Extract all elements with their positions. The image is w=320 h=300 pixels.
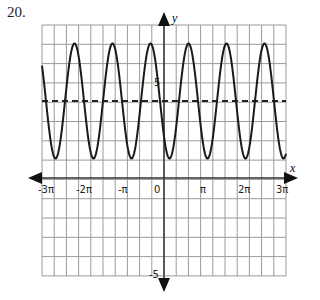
chart: y x -3π-2π-π0π2π3π 5 -5	[0, 0, 320, 300]
x-tick-label: 2π	[238, 184, 250, 195]
x-tick-label: -π	[118, 184, 128, 195]
x-axis-left-arrow-icon	[28, 172, 42, 184]
y-axis-label: y	[171, 11, 178, 25]
x-tick-label: -3π	[38, 184, 54, 195]
x-tick-label: 0	[154, 184, 160, 195]
y-tick-label-neg5: -5	[149, 269, 159, 280]
y-axis-up-arrow-icon	[158, 12, 170, 26]
x-tick-label: -2π	[76, 184, 92, 195]
x-tick-labels: -3π-2π-π0π2π3π	[38, 184, 288, 195]
x-tick-label: π	[200, 184, 206, 195]
x-axis	[28, 172, 298, 184]
y-axis-down-arrow-icon	[158, 278, 170, 292]
x-axis-label: x	[289, 161, 296, 175]
y-axis	[158, 12, 170, 292]
x-tick-label: 3π	[276, 184, 288, 195]
